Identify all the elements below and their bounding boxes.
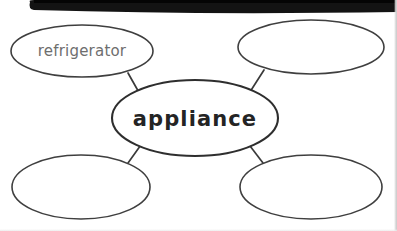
branch-ellipse-bottom-left <box>12 155 150 219</box>
branch-node-top-left[interactable] <box>11 25 153 77</box>
branch-ellipse-bottom-right <box>240 155 382 219</box>
word-web-diagram <box>0 0 397 231</box>
branch-ellipse-top-left <box>11 25 153 77</box>
branch-node-bottom-left[interactable] <box>12 155 150 219</box>
center-node[interactable] <box>112 80 278 156</box>
branch-ellipse-top-right <box>238 20 384 74</box>
branch-node-bottom-right[interactable] <box>240 155 382 219</box>
center-ellipse <box>112 80 278 156</box>
branch-node-top-right[interactable] <box>238 20 384 74</box>
worksheet-page: appliance refrigerator <box>0 0 397 231</box>
